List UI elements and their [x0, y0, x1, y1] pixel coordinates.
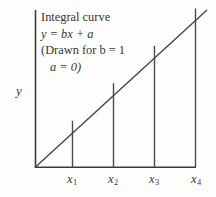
- x-tick-label-1: x1: [67, 172, 77, 187]
- x-tick-symbol-3: x: [149, 172, 155, 186]
- x-tick-index-1: 1: [73, 178, 77, 187]
- x-tick-label-4: x4: [191, 172, 201, 187]
- annotation-equation: y = bx + a: [41, 26, 171, 43]
- x-tick-index-4: 4: [197, 178, 201, 187]
- annotation-title: Integral curve: [41, 9, 171, 26]
- x-tick-symbol-4: x: [191, 172, 197, 186]
- curve-annotation: Integral curve y = bx + a (Drawn for b =…: [41, 9, 171, 75]
- x-tick-index-2: 2: [114, 178, 118, 187]
- y-axis-label: y: [16, 83, 22, 99]
- annotation-parameter-a: a = 0): [41, 59, 171, 76]
- x-tick-label-2: x2: [108, 172, 118, 187]
- x-tick-label-3: x3: [149, 172, 159, 187]
- x-tick-index-3: 3: [155, 178, 159, 187]
- x-tick-symbol-1: x: [67, 172, 73, 186]
- integral-curve-figure: Integral curve y = bx + a (Drawn for b =…: [0, 0, 216, 197]
- x-tick-symbol-2: x: [108, 172, 114, 186]
- annotation-parameter-b: (Drawn for b = 1: [41, 42, 171, 59]
